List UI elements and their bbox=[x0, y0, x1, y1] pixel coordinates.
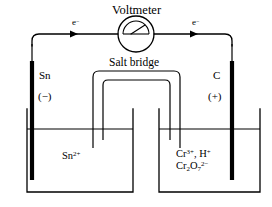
electron-label-left: e− bbox=[72, 18, 79, 27]
voltmeter-label: Voltmeter bbox=[112, 4, 161, 17]
right-solution-cr-charge: 3+ bbox=[187, 148, 194, 155]
left-solution-charge: 2+ bbox=[73, 150, 80, 157]
right-solution-dichromate-o: O bbox=[190, 160, 198, 171]
electrochemical-cell-diagram: Voltmeter e− e− Salt bridge Sn (−) C (+)… bbox=[0, 0, 272, 207]
electron-label-left-sup: − bbox=[76, 18, 79, 24]
right-electrode-label: C bbox=[213, 70, 220, 81]
electron-arrow-right bbox=[190, 31, 198, 38]
cell-schematic-svg bbox=[0, 0, 272, 207]
left-solution-label: Sn2+ bbox=[62, 151, 80, 162]
right-solution-cr: Cr bbox=[176, 148, 187, 159]
right-solution-separator: , H bbox=[194, 148, 207, 159]
wire-left-segment bbox=[32, 34, 118, 46]
left-electrode-label: Sn bbox=[39, 70, 51, 81]
left-electrode-polarity: (−) bbox=[38, 91, 52, 102]
right-solution-line-1: Cr3+, H+ bbox=[176, 148, 211, 160]
salt-bridge-outer-wall bbox=[93, 71, 180, 148]
right-solution-h-charge: + bbox=[207, 148, 211, 155]
right-solution-label: Cr3+, H+ Cr2O72− bbox=[176, 148, 211, 173]
electron-arrow-left bbox=[70, 31, 78, 38]
voltmeter-dial-arc bbox=[123, 21, 149, 34]
salt-bridge-label: Salt bridge bbox=[109, 57, 159, 69]
right-solution-dichromate-cr: Cr bbox=[176, 160, 187, 171]
left-solution-species: Sn bbox=[62, 150, 73, 161]
right-electrode-polarity: (+) bbox=[208, 91, 222, 102]
right-solution-line-2: Cr2O72− bbox=[176, 160, 211, 173]
electron-label-right: e− bbox=[192, 18, 199, 27]
right-solution-dichromate-charge: 2− bbox=[201, 160, 208, 167]
salt-bridge-inner-wall bbox=[103, 80, 170, 140]
electron-label-right-sup: − bbox=[196, 18, 199, 24]
voltmeter-needle bbox=[131, 25, 145, 34]
